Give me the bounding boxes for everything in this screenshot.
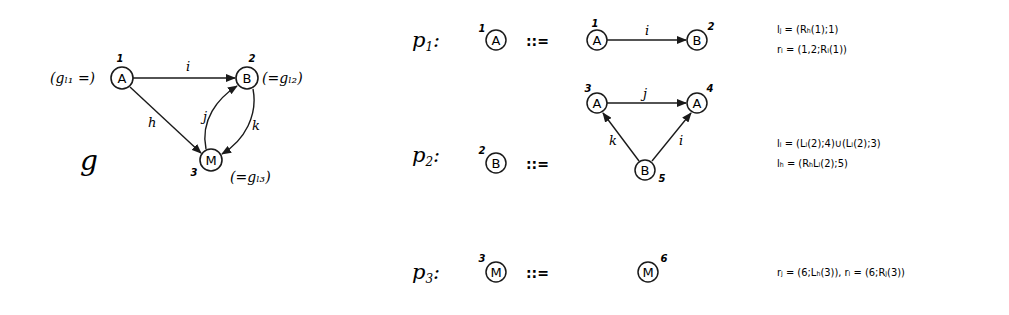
p1-rhs-node-B-2: B 2 <box>687 21 715 50</box>
p1-rhs-node-A-1: A 1 <box>587 18 607 50</box>
annotation-gl1: (gₗ₁ =) <box>50 70 95 86</box>
svg-text:A: A <box>593 33 602 48</box>
edge-label-h: h <box>148 115 156 130</box>
annotation-gl2: (=gₗ₂) <box>262 70 303 86</box>
production-label-p1: p1: <box>412 28 440 54</box>
svg-text:A: A <box>118 71 127 86</box>
svg-text:1: 1 <box>117 53 124 64</box>
svg-text:M: M <box>205 153 216 168</box>
p1-lhs-node: A 1 <box>479 23 506 50</box>
p2-rhs-node-A-4: A 4 <box>687 83 714 113</box>
graph-grammar-diagram: i h j k A 1 B 2 M 3 (gₗ₁ =) (=gₗ₂) (=gₗ₃… <box>0 0 1009 315</box>
p2-lhs-node: B 2 <box>479 145 506 173</box>
p2-edge-label-j: j <box>640 86 647 101</box>
production-label-p2: p2: <box>412 143 440 169</box>
svg-text:B: B <box>243 71 252 86</box>
svg-text:A: A <box>492 33 501 48</box>
edge-label-k: k <box>252 118 260 133</box>
p2-rhs-node-A-3: A 3 <box>585 83 607 113</box>
svg-text:B: B <box>492 156 501 171</box>
svg-text:4: 4 <box>706 83 714 94</box>
p2-rhs-node-B-5: B 5 <box>635 160 666 184</box>
production-label-p3: p3: <box>412 260 440 286</box>
p3-embedding-1: rⱼ = (6;Lₕ(3)), rᵢ = (6;Rⱼ(3)) <box>777 266 905 279</box>
p1-embedding-2: rᵢ = (1,2;Rᵢ(1)) <box>777 43 847 56</box>
svg-text:A: A <box>693 96 702 111</box>
node-B-2: B 2 <box>236 53 258 89</box>
svg-text:B: B <box>693 33 702 48</box>
p1-embedding-1: lⱼ = (Rₕ(1);1) <box>777 23 838 36</box>
production-p3: p3: M 3 ::= M 6 rⱼ = (6;Lₕ(3)), rᵢ = (6;… <box>412 253 905 286</box>
p3-rhs-node-M-6: M 6 <box>638 253 668 282</box>
svg-text:3: 3 <box>479 253 486 264</box>
p2-edge-label-k: k <box>609 133 617 148</box>
annotation-gl3: (=gₗ₃) <box>230 169 271 185</box>
p2-edge-i <box>652 113 691 161</box>
svg-text:5: 5 <box>659 173 666 184</box>
svg-text:B: B <box>641 163 650 178</box>
svg-text:A: A <box>593 96 602 111</box>
edge-label-i: i <box>186 59 190 74</box>
svg-text:2: 2 <box>708 21 715 32</box>
p2-embedding-1: lᵢ = (Lᵢ(2);4)∪(Lᵢ(2);3) <box>777 137 881 150</box>
production-p1: p1: A 1 ::= i A 1 B 2 lⱼ = (Rₕ(1);1) rᵢ … <box>412 18 847 56</box>
svg-text:M: M <box>642 265 653 280</box>
svg-text:6: 6 <box>661 253 668 264</box>
svg-text:2: 2 <box>479 145 486 156</box>
svg-text:1: 1 <box>592 18 599 29</box>
svg-text:M: M <box>490 265 501 280</box>
edge-h <box>130 87 201 153</box>
p3-production-operator: ::= <box>526 265 549 281</box>
p2-embedding-2: lₕ = (RₕLᵢ(2);5) <box>777 157 848 170</box>
p3-lhs-node: M 3 <box>479 253 506 282</box>
edge-j <box>205 86 237 149</box>
host-graph-g: i h j k A 1 B 2 M 3 (gₗ₁ =) (=gₗ₂) (=gₗ₃… <box>50 53 303 185</box>
edge-k <box>222 89 254 154</box>
node-M-3: M 3 <box>191 149 222 178</box>
svg-text:3: 3 <box>191 167 198 178</box>
svg-text:1: 1 <box>479 23 486 34</box>
node-A-1: A 1 <box>111 53 133 89</box>
p1-edge-label-i: i <box>645 23 649 38</box>
graph-name-g: g <box>80 144 98 177</box>
p2-edge-label-i: i <box>679 133 683 148</box>
p2-production-operator: ::= <box>526 156 549 172</box>
production-p2: p2: B 2 ::= j k i A 3 A 4 B 5 lᵢ = (Lᵢ(2… <box>412 83 881 184</box>
p1-production-operator: ::= <box>526 33 549 49</box>
edge-label-j: j <box>200 109 207 124</box>
svg-text:3: 3 <box>585 83 592 94</box>
svg-text:2: 2 <box>249 53 256 64</box>
